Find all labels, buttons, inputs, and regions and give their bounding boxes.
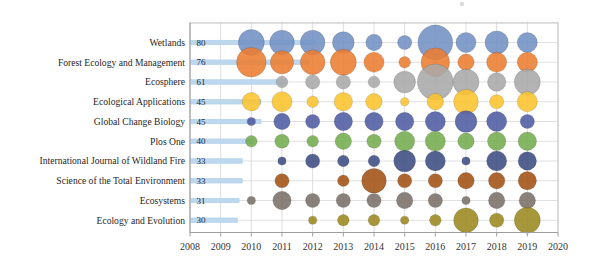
bubble	[334, 93, 352, 111]
bubble	[398, 174, 412, 188]
bubble	[368, 155, 380, 167]
bubble	[336, 193, 350, 207]
bubble	[487, 73, 505, 91]
bubble	[514, 69, 540, 95]
bubble	[487, 111, 507, 131]
bubble	[490, 95, 504, 109]
year-tick-label: 2020	[548, 241, 568, 252]
year-tick-label: 2014	[364, 241, 384, 252]
bubble	[368, 214, 380, 226]
journal-label: Forest Ecology and Management	[58, 57, 185, 68]
journal-label: Ecosystems	[140, 195, 186, 206]
total-value-label: 31	[197, 196, 206, 206]
bubble	[395, 131, 415, 151]
bubble	[398, 35, 412, 49]
bubble	[362, 168, 387, 193]
bubble	[462, 196, 470, 204]
bubble	[278, 157, 286, 165]
bubble	[514, 207, 540, 233]
bubble	[368, 76, 380, 88]
bubble	[428, 193, 442, 207]
bubble	[270, 51, 293, 74]
bubble	[306, 154, 320, 168]
bubble	[394, 150, 416, 172]
bubble	[425, 131, 445, 151]
bubble	[517, 32, 537, 52]
bubble	[366, 34, 382, 50]
journal-label: International Journal of Wildland Fire	[40, 155, 185, 166]
bubble	[273, 191, 291, 209]
bubble	[401, 98, 409, 106]
bubble	[519, 192, 535, 208]
bubble	[487, 52, 507, 72]
bubble	[246, 135, 258, 147]
year-tick-label: 2013	[333, 241, 353, 252]
bubble	[488, 192, 504, 208]
bubble	[430, 214, 442, 226]
chart-canvas: Wetlands80Forest Ecology and Management7…	[0, 0, 590, 276]
bubble	[365, 112, 383, 130]
year-tick-label: 2009	[211, 241, 231, 252]
bubble	[306, 75, 320, 89]
bubble	[338, 175, 350, 187]
year-tick-label: 2017	[456, 241, 476, 252]
bubble	[487, 132, 505, 150]
bubble	[334, 112, 352, 130]
bubble	[455, 111, 477, 133]
bubble	[338, 214, 350, 226]
total-value-label: 45	[197, 117, 207, 127]
year-tick-label: 2016	[425, 241, 445, 252]
bubble	[338, 155, 350, 167]
bubble	[399, 56, 411, 68]
bubble	[366, 94, 382, 110]
bubble	[394, 71, 416, 93]
total-value-label: 40	[197, 136, 207, 146]
bubble	[272, 92, 292, 112]
bubble	[485, 31, 508, 54]
journal-label: Global Change Biology	[94, 116, 185, 127]
bubble	[276, 76, 288, 88]
bubble	[364, 52, 384, 72]
bubble	[275, 134, 289, 148]
bubble	[247, 196, 255, 204]
year-tick-label: 2012	[303, 241, 323, 252]
bubble	[427, 94, 443, 110]
journal-label: Wetlands	[150, 37, 186, 48]
bubble	[395, 112, 413, 130]
bubble	[300, 50, 325, 75]
bubble	[518, 132, 536, 150]
bubble	[488, 173, 504, 189]
bubble	[367, 193, 381, 207]
bubble	[428, 174, 442, 188]
bubble	[367, 134, 381, 148]
bubble	[274, 113, 290, 129]
year-tick-label: 2011	[272, 241, 292, 252]
bubble	[425, 111, 445, 131]
bubble	[520, 114, 534, 128]
bubble	[307, 96, 319, 108]
bubble	[490, 213, 504, 227]
total-value-label: 30	[197, 215, 207, 225]
total-value-label: 61	[197, 77, 206, 87]
journal-year-bubble-chart: Wetlands80Forest Ecology and Management7…	[0, 0, 590, 276]
journal-label: Ecosphere	[145, 76, 185, 87]
bubble	[330, 49, 356, 75]
journal-label: Ecological Applications	[93, 96, 185, 107]
bubble	[401, 216, 409, 224]
bubble	[242, 93, 260, 111]
bubble	[336, 75, 350, 89]
bubble	[517, 92, 537, 112]
bubble	[275, 174, 289, 188]
journal-label: Science of the Total Environment	[56, 175, 185, 186]
total-value-label: 45	[197, 97, 207, 107]
total-value-label: 80	[197, 38, 207, 48]
journal-label: Ecology and Evolution	[97, 215, 186, 226]
bubble	[237, 47, 267, 77]
year-tick-label: 2008	[180, 241, 200, 252]
bubble	[456, 32, 476, 52]
total-value-label: 33	[197, 176, 207, 186]
bubble	[458, 133, 474, 149]
bubble	[487, 151, 507, 171]
year-tick-label: 2019	[517, 241, 537, 252]
year-tick-label: 2015	[395, 241, 415, 252]
